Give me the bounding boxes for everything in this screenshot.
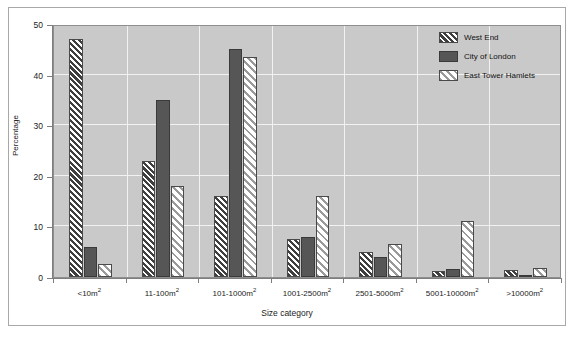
x-tick-label-5: 5001-10000m2	[426, 287, 479, 298]
y-axis-title: Percentage	[11, 115, 20, 156]
bar-1-5	[446, 269, 460, 277]
y-tick-label-1: 10	[34, 222, 43, 232]
bar-1-1	[156, 100, 170, 277]
x-axis-title: Size category	[9, 308, 565, 318]
bar-0-5	[432, 271, 446, 277]
gridline-horizontal	[54, 175, 560, 176]
x-tick-mark-3	[271, 278, 272, 283]
gridline-vertical	[417, 26, 418, 277]
x-tick-label-4: 2501-5000m2	[355, 287, 403, 298]
x-tick-label-1: 11-100m2	[145, 287, 179, 298]
x-axis-line	[52, 278, 562, 279]
figure-frame: Percentage 01020304050 West EndCity of L…	[8, 7, 566, 326]
y-tick-label-2: 20	[34, 172, 43, 182]
bar-2-0	[98, 264, 112, 277]
legend-item-1[interactable]: City of London	[439, 49, 557, 64]
bar-0-1	[142, 161, 156, 277]
x-tick-label-2: 101-1000m2	[213, 287, 257, 298]
y-tick-label-3: 30	[34, 121, 43, 131]
x-tick-mark-0	[53, 278, 54, 283]
plot-area-wrapper: West EndCity of LondonEast Tower Hamlets	[53, 25, 561, 278]
legend-item-2[interactable]: East Tower Hamlets	[439, 68, 557, 83]
legend-swatch-icon-1	[439, 51, 458, 62]
bar-2-2	[243, 57, 257, 277]
y-tick-label-4: 40	[34, 71, 43, 81]
gridline-horizontal	[54, 124, 560, 125]
plot-area: West EndCity of LondonEast Tower Hamlets	[53, 25, 561, 278]
bar-0-6	[504, 270, 518, 277]
x-tick-mark-4	[343, 278, 344, 283]
legend-item-0[interactable]: West End	[439, 30, 557, 45]
bar-0-3	[287, 239, 301, 277]
bar-1-3	[301, 237, 315, 277]
x-tick-label-3: 1001-2500m2	[283, 287, 331, 298]
bar-0-4	[359, 252, 373, 277]
x-tick-mark-7	[561, 278, 562, 283]
bar-1-0	[84, 247, 98, 277]
x-tick-mark-1	[126, 278, 127, 283]
gridline-vertical	[127, 26, 128, 277]
bar-2-6	[533, 268, 547, 277]
chart-legend: West EndCity of LondonEast Tower Hamlets	[439, 30, 557, 87]
y-tick-label-5: 50	[34, 20, 43, 30]
bar-2-5	[461, 221, 475, 277]
bar-0-0	[69, 39, 83, 277]
x-tick-label-0: <10m2	[77, 287, 101, 298]
bar-2-1	[171, 186, 185, 277]
gridline-vertical	[344, 26, 345, 277]
bar-2-4	[388, 244, 402, 277]
legend-label-1: City of London	[464, 51, 516, 62]
bar-1-4	[374, 257, 388, 277]
bar-2-3	[316, 196, 330, 277]
y-tick-label-0: 0	[38, 273, 43, 283]
x-tick-mark-2	[198, 278, 199, 283]
bar-1-6	[519, 275, 533, 277]
bar-0-2	[214, 196, 228, 277]
x-tick-mark-5	[416, 278, 417, 283]
legend-label-2: East Tower Hamlets	[464, 70, 535, 81]
x-tick-mark-6	[488, 278, 489, 283]
gridline-vertical	[199, 26, 200, 277]
legend-swatch-icon-2	[439, 70, 458, 81]
gridline-vertical	[272, 26, 273, 277]
gridline-horizontal	[54, 225, 560, 226]
legend-swatch-icon-0	[439, 32, 458, 43]
legend-label-0: West End	[464, 32, 499, 43]
bar-1-2	[229, 49, 243, 277]
x-tick-label-6: >10000m2	[506, 287, 543, 298]
